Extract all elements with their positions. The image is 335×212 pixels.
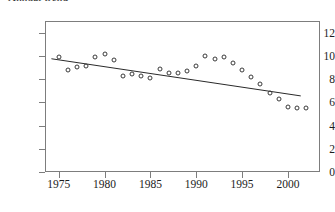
data-point xyxy=(130,72,135,77)
data-point xyxy=(157,66,162,71)
data-point xyxy=(65,67,70,72)
data-point xyxy=(230,60,235,65)
data-point xyxy=(111,58,116,63)
data-point xyxy=(240,67,245,72)
data-point xyxy=(166,71,171,76)
data-point xyxy=(56,55,61,60)
data-point xyxy=(120,73,125,78)
data-point xyxy=(295,106,300,111)
data-point xyxy=(258,81,263,86)
data-point xyxy=(304,106,309,111)
data-point xyxy=(249,74,254,79)
data-point xyxy=(221,55,226,60)
data-point xyxy=(84,64,89,69)
data-point xyxy=(203,53,208,58)
data-point xyxy=(212,57,217,62)
data-point xyxy=(93,55,98,60)
data-point xyxy=(175,71,180,76)
data-point xyxy=(75,65,80,70)
data-point xyxy=(139,73,144,78)
linear-regression-line xyxy=(51,59,300,96)
data-point xyxy=(194,64,199,69)
data-point xyxy=(185,68,190,73)
data-point xyxy=(102,51,107,56)
chart-figure: Annual trend 024681012 19751980198519901… xyxy=(0,0,335,212)
data-point xyxy=(276,96,281,101)
data-point xyxy=(285,104,290,109)
data-point xyxy=(148,75,153,80)
data-point xyxy=(267,91,272,96)
